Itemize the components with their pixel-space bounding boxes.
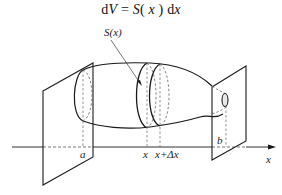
projection-lines xyxy=(83,63,226,147)
label-x-plus-dx: x+Δx xyxy=(155,148,179,160)
area-leader-line xyxy=(111,40,140,83)
area-label: S(x) xyxy=(104,26,122,38)
label-b: b xyxy=(217,134,223,146)
axis-arrow-icon xyxy=(268,145,276,150)
label-a: a xyxy=(80,148,86,160)
solid-of-known-cross-section-diagram xyxy=(0,0,282,195)
solid-body xyxy=(74,63,226,128)
cross-section-a-hidden xyxy=(83,70,92,121)
cross-section-at-x-plus-dx xyxy=(150,64,170,126)
label-x: x xyxy=(143,148,148,160)
cross-section-at-b xyxy=(222,94,228,107)
plane-at-a xyxy=(43,63,93,185)
axis-label-x: x xyxy=(266,153,271,165)
